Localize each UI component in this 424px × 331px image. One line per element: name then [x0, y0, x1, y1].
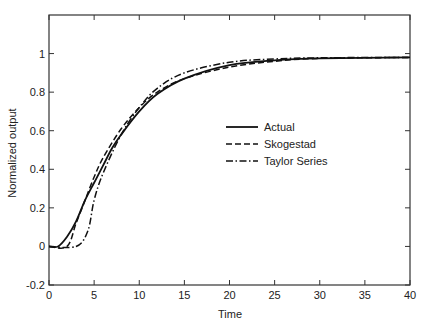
- y-axis-title: Normalized output: [6, 108, 18, 197]
- legend-label: Taylor Series: [264, 155, 328, 167]
- series-line-actual: [49, 57, 410, 247]
- x-tick-label: 0: [46, 289, 52, 301]
- series-line-taylor-series: [49, 57, 410, 247]
- x-tick-label: 30: [314, 289, 326, 301]
- series-line-skogestad: [49, 57, 410, 248]
- series-lines: [49, 57, 410, 248]
- x-tick-label: 25: [269, 289, 281, 301]
- x-axis-title: Time: [218, 308, 242, 320]
- y-tick-label: 0: [39, 240, 45, 252]
- x-tick-label: 20: [223, 289, 235, 301]
- x-tick-label: 5: [91, 289, 97, 301]
- y-tick-label: 1: [39, 48, 45, 60]
- y-tick-label: 0.8: [30, 86, 45, 98]
- legend-label: Actual: [264, 121, 295, 133]
- x-tick-label: 10: [133, 289, 145, 301]
- y-tick-label: 0.6: [30, 125, 45, 137]
- plot-border: [49, 15, 410, 285]
- legend-label: Skogestad: [264, 138, 316, 150]
- y-tick-label: 0.4: [30, 163, 45, 175]
- x-tick-label: 15: [178, 289, 190, 301]
- y-axis-ticks: -0.200.20.40.60.81: [26, 48, 410, 291]
- legend: ActualSkogestadTaylor Series: [226, 121, 328, 167]
- plot-frame: [49, 15, 410, 285]
- y-tick-label: 0.2: [30, 202, 45, 214]
- x-tick-label: 35: [359, 289, 371, 301]
- line-chart: 0510152025303540 -0.200.20.40.60.81 Actu…: [0, 0, 424, 331]
- y-tick-label: -0.2: [26, 279, 45, 291]
- x-tick-label: 40: [404, 289, 416, 301]
